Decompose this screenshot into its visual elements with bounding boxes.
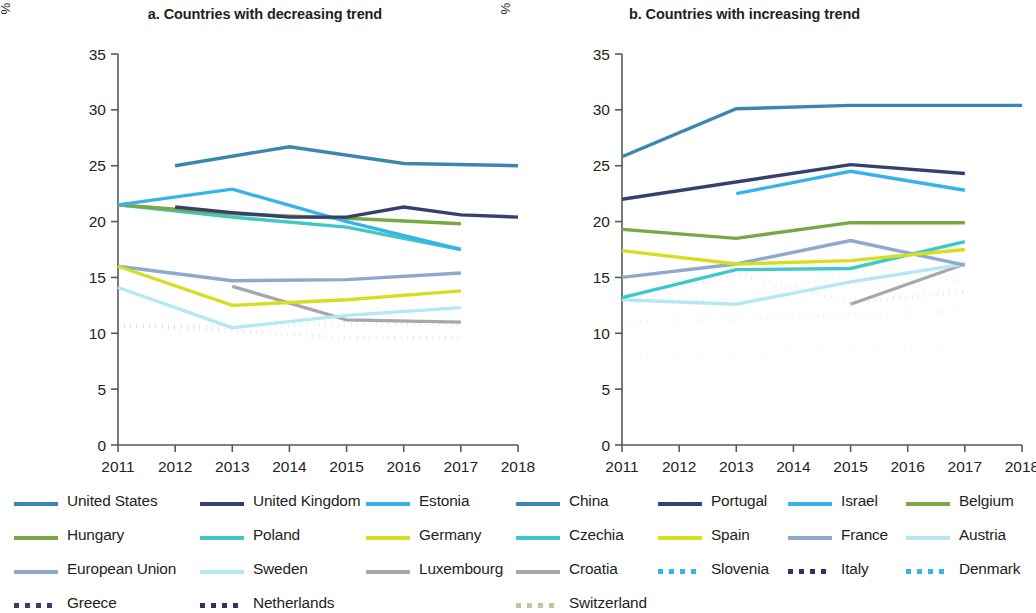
series-line-denmark [622, 311, 965, 321]
x-tick-label: 2014 [272, 458, 307, 475]
legend-swatch-icon [14, 492, 58, 510]
series-line-china [622, 105, 1022, 156]
legend-swatch-icon [200, 492, 244, 510]
legend-swatch-icon [788, 492, 832, 510]
legend-item-croatia[interactable]: Croatia [516, 560, 618, 578]
legend-item-china[interactable]: China [516, 492, 608, 510]
y-tick-label: 20 [89, 213, 107, 230]
y-tick-label: 35 [593, 46, 610, 63]
series-line-israel [736, 171, 965, 193]
legend-item-poland[interactable]: Poland [200, 526, 300, 544]
legend-label: Sweden [253, 561, 308, 576]
legend-label: Austria [959, 527, 1006, 542]
series-line-czechia [622, 242, 965, 298]
legend-label: Netherlands [253, 595, 334, 610]
legend-item-united-kingdom[interactable]: United Kingdom [200, 492, 360, 510]
legend-item-slovenia[interactable]: Slovenia [658, 560, 769, 578]
legend-label: Switzerland [569, 595, 647, 610]
legend-item-israel[interactable]: Israel [788, 492, 878, 510]
y-tick-label: 0 [601, 437, 610, 454]
y-tick-label: 15 [89, 269, 106, 286]
legend-swatch-icon [200, 526, 244, 544]
legend-swatch-icon [658, 492, 702, 510]
legend-label: Estonia [419, 493, 469, 508]
legend-item-united-states[interactable]: United States [14, 492, 157, 510]
series-line-poland [118, 205, 461, 250]
legend-swatch-icon [516, 492, 560, 510]
legend-label: Czechia [569, 527, 624, 542]
legend-swatch-icon [516, 594, 560, 612]
legend-item-netherlands[interactable]: Netherlands [200, 594, 334, 612]
legend-swatch-icon [516, 526, 560, 544]
y-tick-label: 10 [89, 325, 107, 342]
y-tick-label: 5 [97, 381, 106, 398]
legend-label: Israel [841, 493, 878, 508]
legend-item-luxembourg[interactable]: Luxembourg [366, 560, 503, 578]
x-tick-label: 2018 [1005, 458, 1036, 475]
legend-swatch-icon [14, 526, 58, 544]
y-tick-label: 25 [89, 157, 106, 174]
legend-item-switzerland[interactable]: Switzerland [516, 594, 647, 612]
panel-b-plot: 0510152025303520112012201320142015201620… [576, 48, 1036, 485]
legend-item-european-union[interactable]: European Union [14, 560, 176, 578]
x-tick-label: 2013 [719, 458, 753, 475]
y-tick-label: 15 [593, 269, 610, 286]
series-line-european-union [118, 266, 461, 281]
series-line-italy [622, 274, 965, 302]
legend-swatch-icon [366, 560, 410, 578]
x-tick-label: 2012 [158, 458, 192, 475]
y-tick-label: 5 [601, 381, 610, 398]
legend-swatch-icon [658, 526, 702, 544]
legend-label: Belgium [959, 493, 1014, 508]
legend-label: Portugal [711, 493, 767, 508]
legend-label: Denmark [959, 561, 1020, 576]
legend-label: Italy [841, 561, 868, 576]
legend-label: Germany [419, 527, 481, 542]
legend-label: China [569, 493, 608, 508]
x-tick-label: 2016 [890, 458, 924, 475]
legend-item-greece[interactable]: Greece [14, 594, 117, 612]
x-tick-label: 2015 [833, 458, 867, 475]
y-tick-label: 30 [89, 101, 107, 118]
legend-item-portugal[interactable]: Portugal [658, 492, 767, 510]
legend-item-sweden[interactable]: Sweden [200, 560, 308, 578]
y-tick-label: 25 [593, 157, 610, 174]
panel-a-y-axis-label: % of older adults with any ADL/IADL limi… [0, 0, 20, 76]
x-tick-label: 2011 [101, 458, 134, 475]
legend-label: United Kingdom [253, 493, 360, 508]
legend-item-spain[interactable]: Spain [658, 526, 750, 544]
legend-label: France [841, 527, 888, 542]
legend-label: Poland [253, 527, 300, 542]
legend-item-hungary[interactable]: Hungary [14, 526, 124, 544]
series-line-switzerland [622, 344, 965, 356]
legend-item-belgium[interactable]: Belgium [906, 492, 1014, 510]
legend-item-czechia[interactable]: Czechia [516, 526, 624, 544]
legend-swatch-icon [788, 560, 832, 578]
x-tick-label: 2011 [605, 458, 638, 475]
x-tick-label: 2015 [329, 458, 363, 475]
legend-label: Croatia [569, 561, 618, 576]
legend-label: Spain [711, 527, 750, 542]
legend-swatch-icon [906, 492, 950, 510]
legend-item-denmark[interactable]: Denmark [906, 560, 1020, 578]
legend-swatch-icon [14, 560, 58, 578]
x-tick-label: 2017 [948, 458, 982, 475]
x-tick-label: 2014 [776, 458, 811, 475]
legend-label: Slovenia [711, 561, 769, 576]
series-line-netherlands [118, 325, 461, 337]
legend-item-austria[interactable]: Austria [906, 526, 1006, 544]
y-tick-label: 20 [593, 213, 611, 230]
legend-swatch-icon [366, 526, 410, 544]
series-line-croatia [851, 264, 965, 304]
y-tick-label: 10 [593, 325, 611, 342]
legend-item-italy[interactable]: Italy [788, 560, 868, 578]
legend-item-france[interactable]: France [788, 526, 888, 544]
legend-label: Hungary [67, 527, 124, 542]
legend-item-germany[interactable]: Germany [366, 526, 481, 544]
legend-swatch-icon [366, 492, 410, 510]
panel-decreasing-trend: a. Countries with decreasing trend % of … [0, 0, 500, 613]
series-line-united-states [175, 147, 518, 166]
legend-item-estonia[interactable]: Estonia [366, 492, 469, 510]
x-tick-label: 2012 [662, 458, 696, 475]
panel-b-y-axis-label: % of older adults with any ADL/IADL limi… [498, 0, 520, 76]
